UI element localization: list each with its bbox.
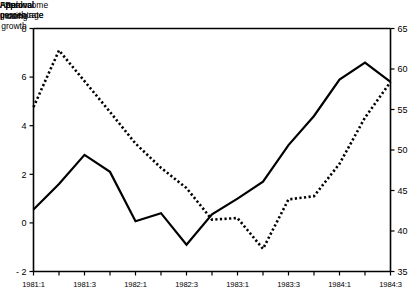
right-axis-tick-label: 55 [398,105,408,115]
left-axis-tick-label: 4 [21,121,26,131]
plot-area: - 202468354045505560651981:11981:31982:1… [0,0,417,301]
left-axis-tick-label: 0 [21,218,26,228]
x-axis-tick-label: 1984:1 [328,280,351,289]
data-series [34,50,391,248]
axes [34,29,391,272]
x-axis-tick-label: 1982:1 [124,280,147,289]
right-axis-tick-label: 40 [398,226,408,236]
axis-ticks [30,29,395,276]
left-axis-tick-label: 2 [21,170,26,180]
chart-container: Real income growth rate Approval percent… [0,0,417,301]
x-axis-tick-label: 1981:1 [22,280,45,289]
right-axis-tick-label: 50 [398,145,408,155]
x-axis-tick-label: 1984:3 [379,280,402,289]
right-axis-tick-label: 65 [398,24,408,34]
x-axis-tick-label: 1983:3 [277,280,300,289]
left-axis-tick-label: 8 [21,24,26,34]
series-line-approval-rating [34,50,391,248]
axis-tick-labels: - 202468354045505560651981:11981:31982:1… [16,24,408,289]
left-axis-tick-label: - 2 [16,267,27,277]
x-axis-tick-label: 1982:3 [175,280,198,289]
right-axis-tick-label: 45 [398,186,408,196]
left-axis-tick-label: 6 [21,72,26,82]
x-axis-tick-label: 1981:3 [73,280,96,289]
right-axis-tick-label: 60 [398,64,408,74]
x-axis-tick-label: 1983:1 [226,280,249,289]
right-axis-tick-label: 35 [398,267,408,277]
series-line-real-income-growth [34,63,391,245]
